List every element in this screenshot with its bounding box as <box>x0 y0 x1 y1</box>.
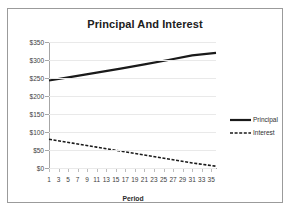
y-tick-mark <box>45 114 49 115</box>
y-tick-label: $150 <box>10 111 44 118</box>
x-tick-mark <box>49 169 50 172</box>
x-tick-mark <box>106 169 107 172</box>
x-tick-label: 29 <box>179 176 186 183</box>
x-tick-mark <box>202 169 203 172</box>
y-tick-label: $100 <box>10 129 44 136</box>
gridline <box>49 42 216 43</box>
gridline <box>49 96 216 97</box>
x-tick-label: 3 <box>57 176 61 183</box>
gridline <box>49 132 216 133</box>
x-tick-label: 5 <box>66 176 70 183</box>
x-tick-label: 17 <box>122 176 129 183</box>
x-tick-mark <box>116 169 117 172</box>
y-tick-label: $250 <box>10 75 44 82</box>
x-tick-mark <box>154 169 155 172</box>
y-tick-mark <box>45 60 49 61</box>
series-line-interest <box>49 139 216 166</box>
chart-title: Principal And Interest <box>8 18 282 30</box>
x-tick-label: 11 <box>93 176 100 183</box>
x-tick-label: 19 <box>131 176 138 183</box>
x-axis-title: Period <box>49 195 217 202</box>
x-tick-mark <box>211 169 212 172</box>
x-tick-label: 23 <box>150 176 157 183</box>
x-tick-label: 15 <box>112 176 119 183</box>
y-tick-mark <box>45 150 49 151</box>
y-tick-label: $50 <box>10 147 44 154</box>
x-tick-mark <box>183 169 184 172</box>
chart-container: Principal And Interest $0$50$100$150$200… <box>7 8 283 203</box>
x-tick-label: 25 <box>160 176 167 183</box>
gridline <box>49 168 216 169</box>
y-tick-label: $350 <box>10 39 44 46</box>
series-line-principal <box>49 53 216 81</box>
legend-label: Interest <box>251 129 275 136</box>
legend-label: Principal <box>251 116 278 123</box>
y-tick-mark <box>45 78 49 79</box>
chart-legend: PrincipalInterest <box>230 113 293 139</box>
gridline <box>49 150 216 151</box>
x-tick-mark <box>59 169 60 172</box>
x-tick-label: 27 <box>169 176 176 183</box>
x-tick-mark <box>173 169 174 172</box>
x-tick-label: 31 <box>189 176 196 183</box>
y-tick-mark <box>45 96 49 97</box>
y-tick-label: $200 <box>10 93 44 100</box>
x-tick-label: 7 <box>76 176 80 183</box>
legend-item-interest[interactable]: Interest <box>230 126 293 139</box>
y-tick-mark <box>45 132 49 133</box>
y-tick-mark <box>45 42 49 43</box>
legend-line-icon <box>230 116 251 124</box>
x-tick-label: 33 <box>198 176 205 183</box>
x-tick-label: 35 <box>208 176 215 183</box>
x-tick-label: 9 <box>85 176 89 183</box>
x-tick-mark <box>78 169 79 172</box>
x-tick-label: 13 <box>103 176 110 183</box>
x-tick-mark <box>125 169 126 172</box>
x-tick-label: 1 <box>47 176 51 183</box>
plot-area <box>49 42 216 168</box>
y-tick-label: $300 <box>10 57 44 64</box>
legend-item-principal[interactable]: Principal <box>230 113 293 126</box>
y-tick-label: $0 <box>10 165 44 172</box>
x-tick-mark <box>192 169 193 172</box>
gridline <box>49 60 216 61</box>
y-axis-labels: $0$50$100$150$200$250$300$350 <box>8 9 44 210</box>
gridline <box>49 114 216 115</box>
x-tick-mark <box>87 169 88 172</box>
x-tick-mark <box>97 169 98 172</box>
x-tick-mark <box>68 169 69 172</box>
x-tick-mark <box>144 169 145 172</box>
x-tick-label: 21 <box>141 176 148 183</box>
gridline <box>49 78 216 79</box>
y-tick-mark <box>45 168 49 169</box>
legend-line-icon <box>230 129 251 137</box>
x-tick-mark <box>164 169 165 172</box>
x-tick-mark <box>135 169 136 172</box>
